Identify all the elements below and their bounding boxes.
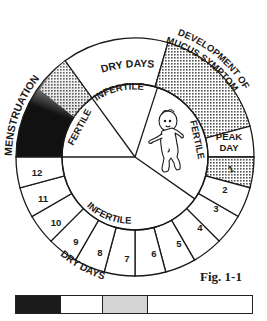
day-9-label: 9	[73, 236, 78, 247]
day-2-label: 2	[222, 184, 227, 195]
label-day: DAY	[219, 142, 239, 153]
day-6-label: 6	[151, 248, 156, 259]
divider-upper-left	[92, 98, 135, 157]
legend-segment-post-peak	[148, 296, 252, 313]
day-8-label: 8	[97, 247, 102, 258]
legend-segment-menstruation	[16, 296, 61, 313]
baby-icon	[149, 110, 184, 172]
divider-upper-right	[135, 88, 158, 157]
day-4-label: 4	[197, 222, 203, 233]
day-11-label: 11	[38, 193, 49, 204]
legend-segment-mucus	[103, 296, 148, 313]
day-5-label: 5	[176, 238, 182, 249]
figure-caption: Fig. 1-1	[200, 269, 242, 285]
day-10-label: 10	[51, 217, 62, 228]
legend-segment-dry-days	[61, 296, 103, 313]
day-12-label: 12	[32, 167, 43, 178]
day-7-label: 7	[124, 253, 129, 264]
label-peak: PEAK	[216, 131, 243, 142]
day-3-label: 3	[213, 203, 218, 214]
legend-bar	[15, 295, 253, 314]
